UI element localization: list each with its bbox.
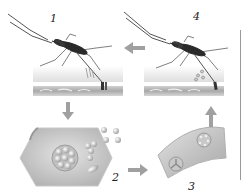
arrow-right-icon — [128, 164, 148, 176]
step-3-label: 3 — [188, 180, 195, 193]
trophozoite-icon — [197, 133, 211, 147]
step-3-panel: 3 — [158, 127, 226, 193]
step-2-label: 2 — [111, 171, 119, 184]
step-4-panel: 4 — [124, 10, 228, 96]
arrow-left-icon — [124, 42, 145, 54]
step-4-label: 4 — [192, 10, 200, 23]
arrow-down-icon — [62, 102, 74, 120]
ring-stage-icon — [169, 157, 183, 171]
step-1-panel: 1 — [8, 12, 123, 96]
step-1-label: 1 — [50, 12, 57, 25]
arrow-up-icon — [205, 106, 217, 127]
red-blood-cell-segment — [158, 127, 226, 178]
diagram-canvas: 1 — [0, 0, 247, 196]
malaria-lifecycle-diagram: 1 — [0, 0, 247, 196]
skin-layer-left — [33, 66, 123, 82]
blood-vessel-right — [144, 86, 224, 96]
step-2-panel: 2 — [20, 127, 121, 186]
skin-layer-right — [144, 66, 224, 82]
proboscis-marker — [101, 82, 104, 90]
